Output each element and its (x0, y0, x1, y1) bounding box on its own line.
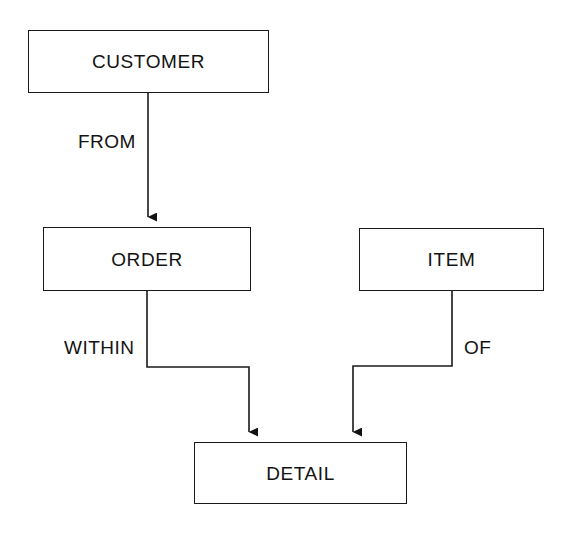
entity-box-detail[interactable]: DETAIL (194, 442, 407, 504)
entity-label-order: ORDER (111, 250, 183, 269)
connector-item-to-detail (353, 291, 452, 432)
entity-label-item: ITEM (428, 250, 476, 269)
entity-box-customer[interactable]: CUSTOMER (28, 30, 269, 93)
entity-box-item[interactable]: ITEM (359, 228, 544, 291)
relationship-label-within: WITHIN (64, 338, 135, 357)
entity-label-customer: CUSTOMER (92, 52, 205, 71)
relationship-label-from: FROM (78, 132, 136, 151)
relationship-label-of: OF (464, 338, 491, 357)
diagram-canvas: CUSTOMER ORDER ITEM DETAIL FROM WITHIN O… (0, 0, 570, 535)
connector-order-to-detail (147, 291, 249, 432)
entity-box-order[interactable]: ORDER (43, 227, 251, 291)
entity-label-detail: DETAIL (266, 464, 335, 483)
